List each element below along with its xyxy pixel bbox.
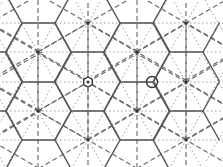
cell-edge	[6, 23, 23, 53]
cell-edge	[203, 82, 220, 112]
marker-center-dot	[87, 81, 90, 84]
rotation-center-dot	[86, 21, 89, 24]
cell-edge	[104, 52, 121, 82]
cell-edge	[154, 52, 171, 82]
cell-edge	[104, 0, 121, 23]
cell-edge	[203, 52, 220, 82]
cell-edge	[203, 111, 220, 141]
cell-edge	[104, 111, 121, 141]
cell-edge	[55, 23, 72, 53]
cell-edge	[6, 0, 23, 23]
symmetry-diagram	[0, 0, 223, 167]
rotation-center-dot	[184, 80, 187, 83]
cell-edge	[6, 82, 23, 112]
rotation-center-dot	[86, 138, 89, 141]
cell-edge	[55, 140, 72, 167]
rotation-center-dot	[36, 109, 39, 112]
rotation-center-dot	[36, 50, 39, 53]
cell-edge	[6, 52, 23, 82]
cell-edge	[104, 140, 121, 167]
cell-edge	[6, 140, 23, 167]
cell-edge	[153, 140, 170, 167]
mirror-axes	[0, 0, 223, 167]
cell-edge	[153, 0, 170, 23]
cell-edge	[55, 0, 72, 23]
cell-edge	[154, 23, 171, 53]
rotation-center-dot	[135, 50, 138, 53]
lattice-svg	[0, 0, 223, 167]
cell-edge	[55, 111, 72, 141]
cell-edge	[104, 82, 121, 112]
rotation-center-dot	[184, 21, 187, 24]
cell-edge	[104, 23, 121, 53]
rotation-center-dot	[184, 138, 187, 141]
cell-edge	[6, 111, 23, 141]
cell-edge	[203, 23, 220, 53]
mirror-axis-line	[134, 110, 223, 167]
rotation-center-dot	[135, 109, 138, 112]
cell-edge	[55, 82, 72, 112]
cell-edge	[55, 52, 72, 82]
cell-edge	[154, 111, 171, 141]
mirror-axis-line	[134, 110, 223, 167]
